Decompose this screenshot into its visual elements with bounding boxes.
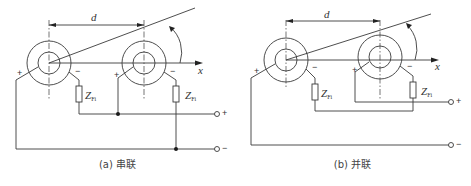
caption-parallel: (b) 并联 bbox=[235, 156, 470, 171]
impedance-label-right: ZFi bbox=[421, 86, 432, 98]
caption-series: (a) 串联 bbox=[0, 156, 235, 171]
coil-right-plus: + bbox=[352, 66, 357, 75]
impedance-label-right: ZFi bbox=[185, 90, 196, 102]
coil-left-plus: + bbox=[17, 69, 22, 78]
panel-series: d x + − + − ZFi ZFi + − (a) 串联 bbox=[0, 0, 235, 186]
coil-right-plus: + bbox=[114, 71, 119, 80]
axis-label-x: x bbox=[198, 65, 203, 76]
coil-left-plus: + bbox=[254, 67, 259, 76]
panel-parallel: d x + − + − ZFi ZFi + − (b) 并联 bbox=[235, 0, 470, 186]
impedance-label-left: ZFi bbox=[85, 90, 96, 102]
terminal-minus-label: − bbox=[222, 144, 227, 153]
impedance-label-left: ZFi bbox=[321, 88, 332, 100]
terminal-minus-label: − bbox=[456, 140, 461, 149]
dimension-label-d: d bbox=[91, 12, 97, 23]
axis-label-x: x bbox=[435, 61, 440, 72]
coil-right-minus: − bbox=[407, 62, 412, 71]
dimension-label-d: d bbox=[324, 9, 330, 20]
terminal-plus-label: + bbox=[456, 97, 461, 106]
coil-left-minus: − bbox=[312, 63, 317, 72]
terminal-plus-label: + bbox=[222, 109, 227, 118]
coil-left-minus: − bbox=[75, 67, 80, 76]
coil-right-minus: − bbox=[170, 67, 175, 76]
